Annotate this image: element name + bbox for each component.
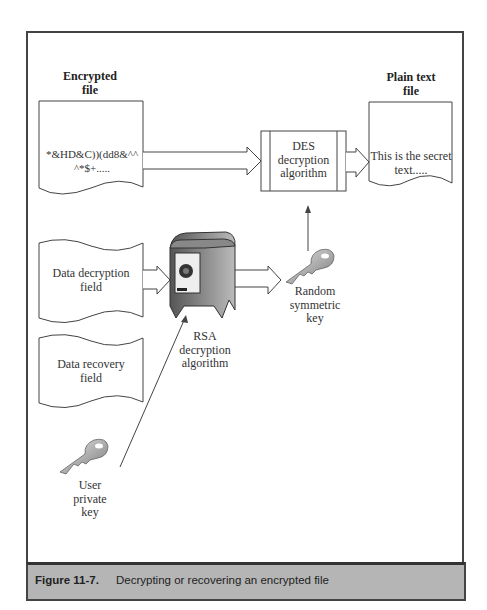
encrypted-file-title: Encryptedfile xyxy=(55,70,125,97)
drf-label: Data recoveryfield xyxy=(39,358,143,385)
rsa-label: RSAdecryptionalgorithm xyxy=(170,330,240,371)
encrypted-file-content: *&HD&C))(dd8&^^^*$+..... xyxy=(38,148,146,175)
user-key-icon xyxy=(60,439,108,474)
des-label: DESdecryptionalgorithm xyxy=(270,140,337,181)
figure-caption-text: Decrypting or recovering an encrypted fi… xyxy=(116,574,329,586)
plain-file-title: Plain textfile xyxy=(374,71,448,98)
random-key-label: Randomsymmetrickey xyxy=(280,285,350,326)
figure-caption: Figure 11-7. Decrypting or recovering an… xyxy=(26,562,466,601)
safe-icon xyxy=(170,232,235,318)
plain-file-content: This is the secrettext..... xyxy=(367,150,455,177)
ddf-label: Data decryptionfield xyxy=(39,267,143,294)
arrow-des-to-plain xyxy=(346,148,369,177)
user-key-label: Userprivatekey xyxy=(60,479,120,520)
random-key-icon xyxy=(286,249,334,284)
figure-number: Figure 11-7. xyxy=(35,574,99,586)
arrow-ddf-to-safe xyxy=(143,266,170,294)
arrow-safe-to-key xyxy=(235,266,281,294)
arrow-enc-to-des xyxy=(143,147,261,175)
